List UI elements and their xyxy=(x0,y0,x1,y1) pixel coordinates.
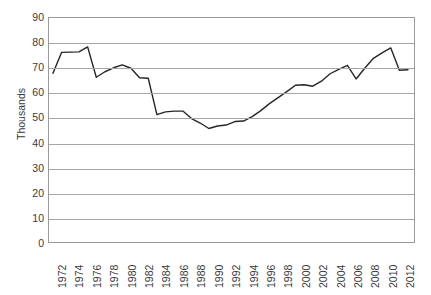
x-tick-label: 1980 xyxy=(126,265,138,288)
x-tick-label: 1992 xyxy=(230,265,242,288)
y-tick-label: 0 xyxy=(38,237,44,249)
x-tick-label: 2004 xyxy=(335,265,347,288)
x-tick-label: 1982 xyxy=(143,265,155,288)
gridline xyxy=(49,169,414,170)
y-tick-label: 30 xyxy=(32,162,44,174)
x-tick-label: 1988 xyxy=(195,265,207,288)
x-tick-label: 2010 xyxy=(387,265,399,288)
x-tick-label: 2000 xyxy=(300,265,312,288)
y-tick-label: 80 xyxy=(32,36,44,48)
y-tick-label: 90 xyxy=(32,11,44,23)
gridline xyxy=(49,68,414,69)
x-tick-label: 1994 xyxy=(248,265,260,288)
x-tick-label: 1974 xyxy=(73,265,85,288)
x-tick-label: 2002 xyxy=(317,265,329,288)
gridline xyxy=(49,194,414,195)
x-tick-label: 1978 xyxy=(108,265,120,288)
x-tick-label: 1990 xyxy=(213,265,225,288)
gridline xyxy=(49,118,414,119)
y-tick-label: 20 xyxy=(32,187,44,199)
gridline xyxy=(49,43,414,44)
y-tick-label: 70 xyxy=(32,61,44,73)
x-tick-label: 2006 xyxy=(352,265,364,288)
x-tick-label: 1996 xyxy=(265,265,277,288)
y-axis-tick-labels: 9080706050403020100 xyxy=(14,0,44,295)
x-tick-label: 1986 xyxy=(178,265,190,288)
x-tick-label: 1984 xyxy=(160,265,172,288)
gridline xyxy=(49,93,414,94)
x-axis-tick-labels: 1972197419761978198019821984198619881990… xyxy=(48,244,415,295)
gridline xyxy=(49,144,414,145)
series-line xyxy=(49,18,414,242)
y-tick-label: 60 xyxy=(32,86,44,98)
x-tick-label: 2008 xyxy=(369,265,381,288)
x-tick-label: 1976 xyxy=(91,265,103,288)
x-tick-label: 1972 xyxy=(56,265,68,288)
x-tick-label: 2012 xyxy=(404,265,416,288)
line-chart: Thousands 9080706050403020100 1972197419… xyxy=(0,0,431,295)
y-tick-label: 10 xyxy=(32,212,44,224)
plot-area xyxy=(48,17,415,243)
y-tick-label: 40 xyxy=(32,137,44,149)
y-tick-label: 50 xyxy=(32,111,44,123)
gridline xyxy=(49,219,414,220)
x-tick-label: 1998 xyxy=(282,265,294,288)
